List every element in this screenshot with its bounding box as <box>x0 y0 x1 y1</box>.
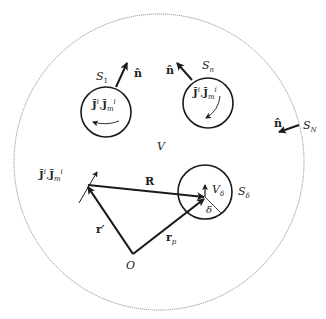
sn-normal-arrow-icon <box>177 63 192 80</box>
s1-surface-label: S1 <box>96 71 108 82</box>
outer-normal-arrow-icon <box>279 125 299 132</box>
outer-normal-label: n̂ <box>274 118 282 129</box>
vector-r-prime-label: r′ <box>96 224 105 235</box>
small-sphere-volume-label: Vδ <box>212 184 224 195</box>
small-sphere-surface-label: Sδ <box>238 186 250 197</box>
s1-sources-label: J̃i,J̃mi <box>92 100 116 110</box>
outer-boundary-sn <box>14 14 304 310</box>
outer-volume-label: V <box>157 141 165 152</box>
diagram-svg <box>0 0 326 319</box>
s1-current-arrow-icon <box>93 121 119 124</box>
source-point-label: J̃i,J̃mi <box>39 170 63 180</box>
outer-boundary-label: SN <box>303 120 317 131</box>
vector-R-label: R <box>145 176 154 187</box>
sn-surface-label: Sn <box>202 60 214 71</box>
s1-normal-arrow-icon <box>116 63 127 87</box>
vector-r-p <box>133 199 204 254</box>
sn-normal-label: n̂ <box>166 65 174 76</box>
vector-r-p-label: rp <box>166 232 176 243</box>
delta-radius-label: δ <box>206 205 212 215</box>
sn-sources-label: J̃i,J̃mi <box>193 88 217 98</box>
s1-normal-label: n̂ <box>134 68 142 79</box>
vector-r-prime <box>88 187 133 254</box>
scatterer-sn-circle <box>183 78 233 128</box>
origin-label: O <box>126 260 135 271</box>
diagram-canvas: V SN n̂ S1 n̂ J̃i,J̃mi Sn n̂ J̃i,J̃mi J̃… <box>0 0 326 319</box>
